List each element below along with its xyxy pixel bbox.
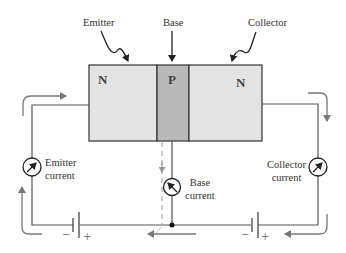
collector-current-label-line1: Collector: [267, 158, 306, 171]
emitter-current-label: Emitter current: [45, 156, 77, 182]
base-region-label: P: [168, 72, 176, 88]
collector-n-region: [189, 65, 262, 141]
collector-region-label: N: [236, 75, 245, 91]
left-battery: [73, 212, 79, 238]
right-battery-plus: +: [261, 231, 269, 242]
emitter-current-meter: [23, 158, 41, 176]
collector-current-label: Collector current: [267, 158, 306, 184]
base-current-meter: [164, 179, 181, 196]
emitter-pointer-arrow: [101, 31, 128, 61]
emitter-flow-arrow-top: [23, 96, 66, 116]
emitter-current-label-line1: Emitter: [45, 156, 77, 169]
collector-flow-arrow-bottom: [285, 214, 327, 234]
collector-current-label-line2: current: [267, 171, 306, 184]
collector-label: Collector: [248, 16, 287, 29]
emitter-current-label-line2: current: [45, 169, 77, 182]
collector-current-meter: [309, 158, 327, 176]
emitter-label: Emitter: [83, 16, 115, 29]
base-current-label-line2: current: [185, 189, 215, 202]
emitter-region-label: N: [98, 72, 107, 88]
collector-pointer-arrow: [232, 32, 256, 61]
left-battery-plus: +: [83, 231, 91, 242]
base-label: Base: [163, 16, 183, 29]
base-current-label: Base current: [185, 176, 215, 202]
base-flow-dashed-tail: [156, 227, 161, 233]
right-battery-minus: −: [241, 229, 249, 240]
right-battery: [252, 212, 258, 238]
base-junction-dot: [170, 223, 175, 228]
left-battery-minus: −: [62, 229, 70, 240]
transistor-diagram: Emitter Base Collector N P N Emitter cur…: [0, 0, 346, 253]
base-current-label-line1: Base: [185, 176, 215, 189]
